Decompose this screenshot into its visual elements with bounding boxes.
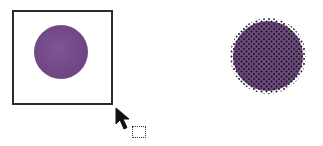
marquee-select-icon	[132, 126, 146, 138]
arrow-pointer-icon	[115, 107, 133, 133]
selection-dots-pattern	[0, 0, 323, 146]
